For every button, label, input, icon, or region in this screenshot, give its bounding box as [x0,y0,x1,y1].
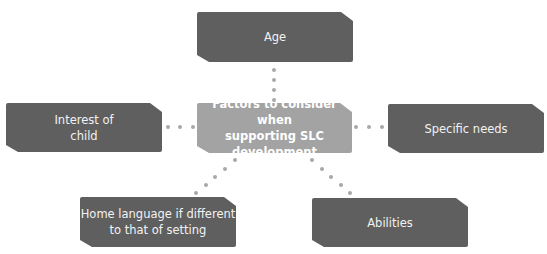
node-specific-needs: Specific needs [388,104,544,153]
node-specific-label: Specific needs [424,122,507,136]
node-home-language: Home language if different to that of se… [80,197,236,247]
node-abilities: Abilities [312,198,468,247]
node-interest-line1: Interest of [54,112,113,128]
central-topic: Factors to consider when supporting SLC … [197,103,352,153]
node-interest-of-child: Interest of child [6,103,162,152]
node-abilities-label: Abilities [367,216,413,230]
node-age: Age [197,12,353,62]
node-home-language-line2: to that of setting [81,222,236,238]
node-age-label: Age [264,30,286,44]
central-topic-line2: supporting SLC development [197,128,352,160]
node-interest-line2: child [54,128,113,144]
node-home-language-line1: Home language if different [81,206,236,222]
